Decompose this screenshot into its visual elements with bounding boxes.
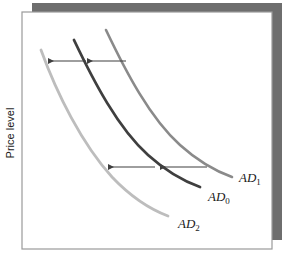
plot-frame <box>22 12 272 249</box>
y-axis-label: Price level <box>4 108 16 159</box>
diagram-canvas: Price level AD1 AD0 AD2 <box>0 0 292 258</box>
curve-ad2-label-subscript: 2 <box>195 223 200 233</box>
y-axis-label-text: Price level <box>4 108 16 159</box>
curve-ad0-label-base: AD <box>207 189 226 204</box>
curve-ad2-label-base: AD <box>177 216 196 231</box>
curve-ad1-label-base: AD <box>238 170 257 185</box>
curve-ad1-label-subscript: 1 <box>256 177 261 187</box>
aggregate-demand-diagram: Price level AD1 AD0 AD2 <box>0 0 292 258</box>
curve-ad0-label-subscript: 0 <box>225 196 230 206</box>
